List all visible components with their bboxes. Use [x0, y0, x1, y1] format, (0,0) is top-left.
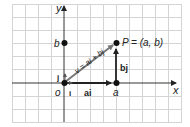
point-P-label: P = (a, b): [122, 37, 163, 48]
vector-diagram: y x v = ai + bj ai bj j i o a b P = (a, …: [0, 0, 190, 127]
origin-label: o: [55, 87, 61, 98]
origin-point: [62, 80, 68, 86]
unit-vector-i-label: i: [69, 89, 71, 98]
vector-ai-label: ai: [84, 88, 92, 98]
point-b-label: b: [54, 38, 60, 49]
vector-bj-label: bj: [120, 63, 128, 73]
point-b: [62, 40, 68, 46]
y-axis-label: y: [55, 2, 63, 14]
x-axis-label: x: [172, 84, 179, 96]
unit-vector-j-label: j: [56, 73, 59, 82]
point-P: [114, 40, 120, 46]
point-a: [114, 80, 120, 86]
grid: [12, 4, 182, 123]
point-a-label: a: [113, 87, 119, 98]
